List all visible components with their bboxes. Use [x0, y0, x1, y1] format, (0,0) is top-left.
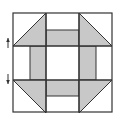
grid-lines-group	[13, 13, 112, 112]
strip-bottom	[46, 80, 79, 96]
corner-triangles-group	[13, 13, 112, 113]
triangle-top-right	[79, 13, 112, 46]
arrow-up-icon	[6, 38, 10, 48]
quilt-block-diagram	[0, 0, 120, 126]
strip-right	[79, 46, 96, 80]
arrows-group	[6, 38, 10, 84]
triangle-top-left	[13, 13, 46, 46]
block-outline	[13, 13, 112, 112]
strip-left	[30, 46, 46, 80]
arrow-down-icon	[6, 74, 10, 84]
triangle-bottom-right	[79, 80, 112, 113]
triangle-bottom-left	[13, 80, 46, 113]
strip-top	[46, 30, 79, 46]
